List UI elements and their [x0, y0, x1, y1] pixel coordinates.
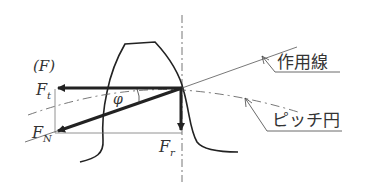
gear-force-diagram: (F) Ft FN Fr φ 作用線 ピッチ円: [0, 0, 365, 189]
line-of-action-label: 作用線: [277, 52, 328, 72]
radial-force-label: Fr: [158, 137, 176, 158]
tangential-force-label: Ft: [35, 80, 52, 101]
normal-force-label: FN: [31, 123, 53, 144]
line-of-action-leader: [262, 56, 275, 72]
pressure-angle-label: φ: [113, 91, 123, 107]
resultant-force-label: (F): [33, 57, 55, 75]
pressure-angle-arc: [137, 89, 139, 103]
pitch-circle-leader: [245, 98, 267, 131]
pitch-circle-label: ピッチ円: [272, 110, 340, 130]
